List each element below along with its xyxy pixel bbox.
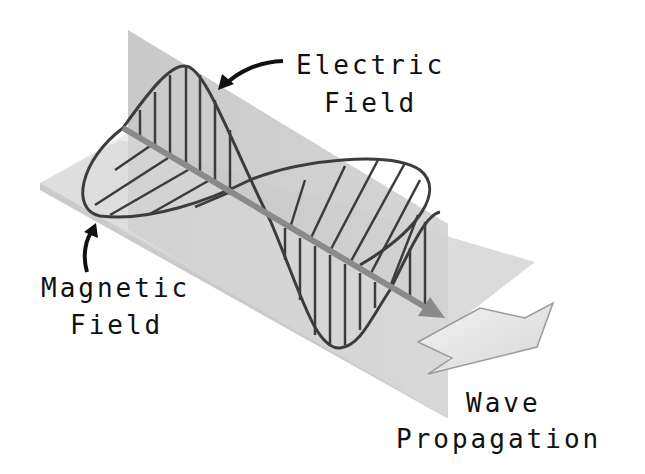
magnetic-label-line2: Field [70, 312, 163, 338]
propagation-label-line1: Wave [466, 390, 541, 416]
electric-pointer-arrow [218, 61, 283, 90]
magnetic-pointer-arrow [84, 223, 98, 272]
electric-label-line1: Electric [296, 52, 445, 78]
magnetic-label-line1: Magnetic [41, 275, 190, 301]
propagation-label-line2: Propagation [396, 426, 601, 452]
electric-label-line2: Field [324, 90, 417, 116]
